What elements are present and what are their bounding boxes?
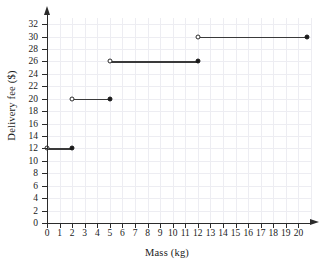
y-axis-tick — [42, 198, 47, 199]
gridline-horizontal — [47, 186, 311, 187]
y-axis-tick-label: 8 — [14, 168, 38, 178]
y-axis-tick-label: 4 — [14, 193, 38, 203]
closed-circle-marker — [107, 96, 112, 101]
closed-circle-marker — [70, 146, 75, 151]
open-circle-marker — [70, 96, 75, 101]
gridline-horizontal — [47, 173, 311, 174]
gridline-horizontal — [47, 161, 311, 162]
y-axis-tick — [42, 124, 47, 125]
gridline-horizontal — [47, 124, 311, 125]
closed-circle-marker — [305, 34, 310, 39]
gridline-horizontal — [47, 24, 311, 25]
y-axis-tick — [42, 24, 47, 25]
y-axis-tick-label: 0 — [14, 218, 38, 228]
y-axis-tick — [42, 86, 47, 87]
closed-circle-marker — [195, 59, 200, 64]
y-axis-tick — [42, 186, 47, 187]
y-axis-arrow-icon — [44, 6, 50, 15]
y-axis-tick-label: 14 — [14, 131, 38, 141]
y-axis-line — [47, 13, 48, 224]
y-axis-tick-label: 24 — [14, 69, 38, 79]
y-axis-tick — [42, 136, 47, 137]
x-axis-arrow-icon — [310, 219, 319, 225]
y-axis-tick-label: 20 — [14, 94, 38, 104]
y-axis-tick-label: 16 — [14, 119, 38, 129]
plot-area — [47, 18, 311, 223]
step-segment — [47, 148, 72, 149]
y-axis-tick — [42, 99, 47, 100]
y-axis-tick-label: 18 — [14, 106, 38, 116]
gridline-horizontal — [47, 148, 311, 149]
y-axis-tick-label: 32 — [14, 19, 38, 29]
y-axis-tick-label: 22 — [14, 81, 38, 91]
gridline-horizontal — [47, 49, 311, 50]
y-axis-tick-label: 30 — [14, 32, 38, 42]
open-circle-marker — [195, 34, 200, 39]
y-axis-tick — [42, 74, 47, 75]
y-axis-tick-label: 12 — [14, 143, 38, 153]
gridline-horizontal — [47, 86, 311, 87]
step-segment — [110, 61, 198, 62]
y-axis-tick — [42, 37, 47, 38]
y-axis-tick-label: 6 — [14, 181, 38, 191]
y-axis-tick — [42, 211, 47, 212]
gridline-vertical — [311, 18, 312, 223]
gridline-horizontal — [47, 111, 311, 112]
y-axis-tick-label: 10 — [14, 156, 38, 166]
gridline-horizontal — [47, 211, 311, 212]
x-axis-title: Mass (kg) — [0, 247, 334, 258]
y-axis-tick — [42, 61, 47, 62]
y-axis-tick — [42, 161, 47, 162]
y-axis-tick-label: 28 — [14, 44, 38, 54]
x-axis-tick-label: 20 — [290, 228, 306, 238]
y-axis-tick-label: 26 — [14, 56, 38, 66]
step-segment — [198, 37, 307, 38]
gridline-horizontal — [47, 74, 311, 75]
gridline-horizontal — [47, 198, 311, 199]
gridline-horizontal — [47, 136, 311, 137]
y-axis-tick — [42, 111, 47, 112]
y-axis-tick — [42, 49, 47, 50]
open-circle-marker — [107, 59, 112, 64]
delivery-fee-step-chart: 0246810121416182022242628303201234567891… — [0, 0, 334, 273]
step-segment — [72, 99, 110, 100]
y-axis-title: Delivery fee ($) — [6, 41, 17, 171]
y-axis-tick — [42, 148, 47, 149]
y-axis-tick — [42, 173, 47, 174]
y-axis-tick-label: 2 — [14, 206, 38, 216]
